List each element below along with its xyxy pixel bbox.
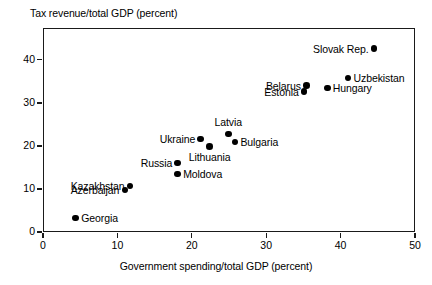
data-point-label: Hungary <box>333 82 372 93</box>
data-point-label: Kazakhstan <box>71 180 125 191</box>
data-point-label: Bulgaria <box>240 137 278 148</box>
x-tick-mark <box>42 233 43 238</box>
data-point-label: Uzbekistan <box>354 72 405 83</box>
y-axis-title: Tax revenue/total GDP (percent) <box>30 7 177 19</box>
x-tick-mark <box>117 233 118 238</box>
data-point-label: Belarus <box>266 80 301 91</box>
data-point-label: Russia <box>141 158 173 169</box>
data-point-label: Slovak Rep. <box>313 43 369 54</box>
data-point <box>174 171 181 178</box>
x-tick-label: 30 <box>246 240 286 251</box>
scatter-chart: Tax revenue/total GDP (percent) 01020304… <box>0 0 432 285</box>
x-tick-mark <box>414 233 415 238</box>
data-point <box>303 82 310 89</box>
x-tick-mark <box>340 233 341 238</box>
y-tick-label: 0 <box>7 226 35 237</box>
y-tick-mark <box>37 59 42 60</box>
data-point <box>206 143 213 150</box>
x-tick-label: 0 <box>23 240 63 251</box>
data-point-label: Latvia <box>215 117 242 128</box>
y-tick-label: 10 <box>7 183 35 194</box>
data-point <box>324 85 331 92</box>
y-tick-mark <box>37 145 42 146</box>
x-axis-title: Government spending/total GDP (percent) <box>0 260 432 272</box>
x-tick-label: 10 <box>97 240 137 251</box>
y-tick-label: 40 <box>7 54 35 65</box>
y-tick-label: 20 <box>7 140 35 151</box>
data-point <box>225 131 232 138</box>
y-tick-mark <box>37 231 42 232</box>
data-point-label: Moldova <box>183 168 222 179</box>
x-tick-label: 20 <box>172 240 212 251</box>
y-tick-label: 30 <box>7 97 35 108</box>
data-point-label: Georgia <box>81 212 118 223</box>
data-point-label: Ukraine <box>160 134 195 145</box>
y-tick-mark <box>37 188 42 189</box>
x-tick-mark <box>191 233 192 238</box>
x-tick-label: 50 <box>395 240 432 251</box>
x-tick-mark <box>266 233 267 238</box>
x-tick-label: 40 <box>321 240 361 251</box>
data-point-label: Lithuania <box>189 152 231 163</box>
data-point <box>72 215 79 222</box>
y-tick-mark <box>37 102 42 103</box>
